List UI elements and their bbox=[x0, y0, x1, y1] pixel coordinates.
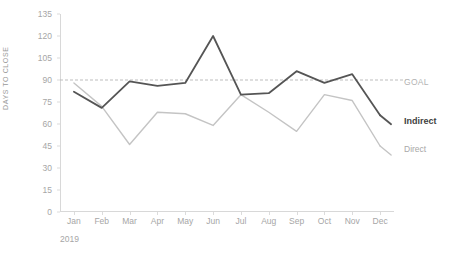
y-tick-mark bbox=[57, 190, 60, 191]
y-tick-mark bbox=[57, 124, 60, 125]
y-tick-label: 105 bbox=[38, 53, 52, 63]
y-tick-label: 120 bbox=[38, 31, 52, 41]
y-tick-mark bbox=[57, 102, 60, 103]
x-tick-label: Dec bbox=[373, 216, 388, 226]
x-tick-mark bbox=[213, 212, 214, 215]
x-tick-label: Feb bbox=[94, 216, 109, 226]
series-line-indirect bbox=[74, 36, 380, 115]
x-tick-label: Jan bbox=[67, 216, 81, 226]
x-tick-label: Aug bbox=[261, 216, 276, 226]
series-line-direct bbox=[74, 83, 380, 146]
x-tick-label: Jun bbox=[206, 216, 220, 226]
x-tick-mark bbox=[130, 212, 131, 215]
x-tick-mark bbox=[74, 212, 75, 215]
y-tick-label: 135 bbox=[38, 9, 52, 19]
x-tick-mark bbox=[380, 212, 381, 215]
y-tick-label: 90 bbox=[43, 75, 52, 85]
series-label-indirect: Indirect bbox=[404, 116, 437, 126]
series-leader-direct bbox=[380, 146, 391, 155]
x-tick-label: Apr bbox=[151, 216, 164, 226]
x-tick-mark bbox=[269, 212, 270, 215]
y-tick-label: 30 bbox=[43, 163, 52, 173]
y-tick-mark bbox=[57, 36, 60, 37]
x-tick-label: Nov bbox=[345, 216, 360, 226]
x-tick-mark bbox=[185, 212, 186, 215]
y-tick-mark bbox=[57, 80, 60, 81]
x-axis-tick-labels: JanFebMarAprMayJunJulAugSepOctNovDec bbox=[60, 216, 394, 232]
y-tick-mark bbox=[57, 212, 60, 213]
plot-area bbox=[60, 14, 394, 212]
y-tick-label: 45 bbox=[43, 141, 52, 151]
y-tick-mark bbox=[57, 58, 60, 59]
y-axis-tick-labels: 0153045607590105120135 bbox=[22, 0, 56, 268]
y-axis-title: DAYS TO CLOSE bbox=[2, 18, 16, 138]
x-tick-label: May bbox=[177, 216, 193, 226]
y-tick-mark bbox=[57, 168, 60, 169]
x-tick-mark bbox=[157, 212, 158, 215]
x-tick-label: Mar bbox=[122, 216, 137, 226]
x-tick-mark bbox=[102, 212, 103, 215]
x-axis-year-label: 2019 bbox=[60, 234, 79, 244]
x-tick-mark bbox=[324, 212, 325, 215]
goal-line-label: GOAL bbox=[404, 77, 429, 87]
x-tick-mark bbox=[241, 212, 242, 215]
y-tick-mark bbox=[57, 14, 60, 15]
x-tick-label: Jul bbox=[235, 216, 246, 226]
series-label-direct: Direct bbox=[404, 144, 426, 154]
x-tick-label: Sep bbox=[289, 216, 304, 226]
y-tick-mark bbox=[57, 146, 60, 147]
series-lines bbox=[60, 14, 394, 212]
y-tick-label: 0 bbox=[47, 207, 52, 217]
x-tick-mark bbox=[352, 212, 353, 215]
y-tick-label: 15 bbox=[43, 185, 52, 195]
chart-container: DAYS TO CLOSE 0153045607590105120135 Jan… bbox=[0, 0, 450, 268]
y-tick-label: 60 bbox=[43, 119, 52, 129]
series-leader-indirect bbox=[380, 115, 391, 124]
y-tick-label: 75 bbox=[43, 97, 52, 107]
x-tick-mark bbox=[297, 212, 298, 215]
x-tick-label: Oct bbox=[318, 216, 331, 226]
